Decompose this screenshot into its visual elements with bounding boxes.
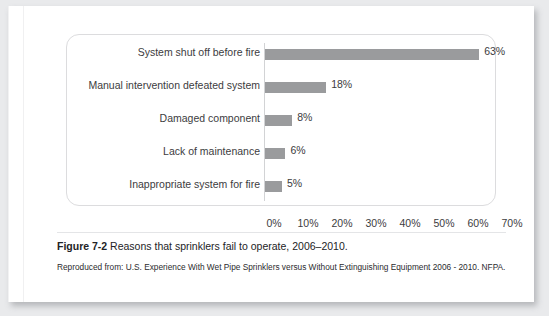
caption-divider [57, 232, 506, 233]
figure-chart-block: System shut off before fireManual interv… [57, 28, 505, 224]
category-label: Manual intervention defeated system [70, 79, 260, 91]
category-axis-labels: System shut off before fireManual interv… [67, 43, 260, 201]
category-label: Inappropriate system for fire [70, 178, 260, 190]
figure-caption-label: Figure 7-2 [57, 240, 107, 252]
bar-value-label: 6% [290, 144, 305, 156]
figure-attribution: Reproduced from: U.S. Experience With We… [57, 262, 527, 272]
tick-label: 70% [501, 217, 522, 229]
bar [265, 181, 282, 192]
bar [265, 49, 479, 60]
chart-panel: System shut off before fireManual interv… [66, 34, 496, 206]
bar-row: 18% [265, 82, 503, 93]
page-inner-edge [23, 6, 24, 302]
bar-value-label: 18% [331, 78, 352, 90]
tick-label: 60% [467, 217, 488, 229]
bar-value-label: 8% [297, 111, 312, 123]
figure-caption: Figure 7-2 Reasons that sprinklers fail … [57, 240, 517, 252]
plot-area: 63%18%8%6%5% [265, 43, 503, 201]
value-axis-tick-labels: 0%10%20%30%40%50%60%70% [274, 217, 515, 231]
tick-label: 40% [399, 217, 420, 229]
category-label: Damaged component [70, 112, 260, 124]
bar-value-label: 5% [287, 177, 302, 189]
bar [265, 115, 292, 126]
bar-value-label: 63% [484, 45, 505, 57]
bar-row: 8% [265, 115, 503, 126]
page-sheet: System shut off before fireManual interv… [8, 6, 534, 302]
bar-row: 63% [265, 49, 503, 60]
tick-label: 30% [365, 217, 386, 229]
bar-row: 5% [265, 181, 503, 192]
category-label: System shut off before fire [70, 46, 260, 58]
bar-row: 6% [265, 148, 503, 159]
bar [265, 82, 326, 93]
tick-label: 20% [331, 217, 352, 229]
tick-label: 10% [297, 217, 318, 229]
category-label: Lack of maintenance [70, 145, 260, 157]
tick-label: 0% [266, 217, 281, 229]
figure-caption-text: Reasons that sprinklers fail to operate,… [107, 240, 348, 252]
bar [265, 148, 285, 159]
tick-label: 50% [433, 217, 454, 229]
